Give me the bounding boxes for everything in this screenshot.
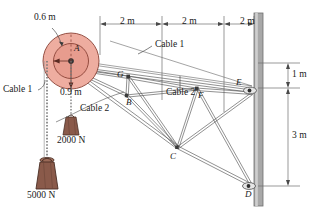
diagram-canvas: [0, 0, 313, 213]
right-dimension-chain: [258, 63, 300, 186]
joint-label-C: C: [170, 152, 176, 161]
cable-1-left-label: Cable 1: [3, 85, 32, 95]
member-C-D-a: [176, 148, 250, 186]
member-G-B-a: [126, 77, 127, 95]
member-C-D-b: [178, 146, 252, 184]
joint-label-F: F: [198, 91, 204, 100]
joint-C-pin: [175, 145, 179, 149]
dimension-label-0-9m: 0.9 m: [60, 88, 82, 98]
dimension-label-span-2: 2 m: [182, 17, 197, 27]
joint-label-B: B: [126, 98, 132, 107]
member-F-D-b: [199, 89, 252, 184]
joint-G-pin: [126, 75, 130, 79]
weight-5000: [36, 157, 58, 189]
cable-1-top-label: Cable 1: [155, 40, 184, 50]
cable-1-top-leader: [138, 46, 152, 54]
load-2000n-label: 2000 N: [57, 136, 85, 146]
member-B-C-b: [128, 94, 178, 145]
cable-2-left-label: Cable 2: [80, 104, 109, 114]
joint-label-A: A: [74, 44, 80, 53]
support-E: [244, 87, 257, 94]
member-B-C-a: [126, 96, 176, 147]
weight-2000: [63, 115, 79, 135]
cable-2-mid-label: Cable 2: [166, 88, 194, 98]
dimension-label-wall-lower: 3 m: [292, 131, 307, 141]
statics-diagram: 0.6 m 0.9 m 2 m 2 m 2 m 1 m 3 m Cable 1 …: [0, 0, 313, 213]
dimension-label-0-6m: 0.6 m: [34, 13, 56, 23]
dimension-label-span-1: 2 m: [120, 17, 135, 27]
joint-label-E: E: [236, 78, 242, 87]
dimension-label-wall-upper: 1 m: [292, 70, 307, 80]
member-C-E-b: [179, 95, 253, 149]
member-A-E-b: [70, 69, 252, 93]
joint-label-D: D: [245, 190, 252, 199]
member-F-D-a: [197, 90, 250, 185]
wall-column-highlight: [255, 13, 258, 206]
joint-label-G: G: [117, 70, 124, 79]
load-5000n-label: 5000 N: [27, 191, 55, 201]
dimension-label-span-3: 2 m: [240, 17, 255, 27]
